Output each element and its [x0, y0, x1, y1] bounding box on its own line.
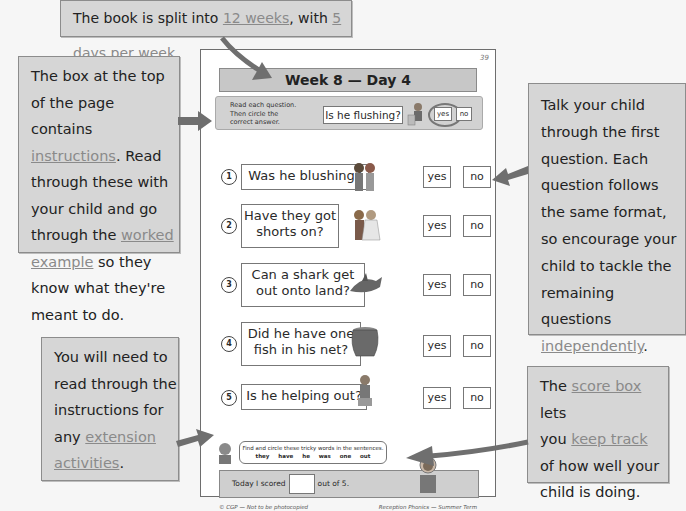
arrow-left-to-extension — [176, 425, 216, 449]
arrow-top-to-title — [0, 0, 686, 511]
arrow-left-to-instructions — [178, 109, 214, 133]
arrow-right-to-score — [400, 440, 530, 470]
arrow-right-to-q1 — [490, 162, 530, 192]
